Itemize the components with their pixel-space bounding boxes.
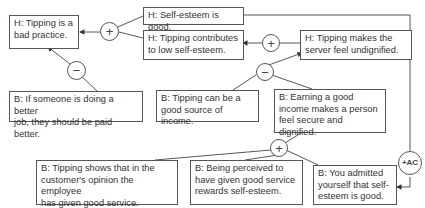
argument-diagram: H: Tipping is a bad practice. H: Self-es… bbox=[0, 0, 425, 208]
operator-plus-icon: + bbox=[100, 22, 119, 41]
node-h1: H: Tipping is a bad practice. bbox=[9, 15, 79, 49]
node-b4: B: Tipping shows that in the customer's … bbox=[36, 160, 178, 205]
operator-plus-icon: + bbox=[270, 139, 288, 157]
operator-plus-icon: + bbox=[262, 34, 280, 52]
node-h4: H: Tipping makes the server feel undigni… bbox=[300, 30, 412, 60]
node-b1: B: If someone is doing a better job, the… bbox=[9, 91, 143, 122]
operator-minus-icon: − bbox=[256, 63, 274, 81]
operator-minus-icon: − bbox=[67, 61, 86, 80]
node-b2: B: Tipping can be a good source of incom… bbox=[156, 90, 259, 122]
node-h3: H: Tipping contributes to low self-estee… bbox=[143, 30, 244, 60]
node-b6: B: You admitted yourself that self- este… bbox=[313, 165, 397, 205]
node-b5: B: Being perceived to have given good se… bbox=[190, 160, 303, 205]
operator-ac-icon: +AC bbox=[398, 151, 422, 175]
node-b3: B: Earning a good income makes a person … bbox=[274, 89, 386, 133]
node-h2: H: Self-esteem is good. bbox=[143, 7, 244, 25]
